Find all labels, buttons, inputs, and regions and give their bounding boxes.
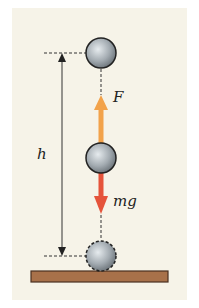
height-dimension — [58, 53, 66, 256]
ball-middle — [86, 143, 116, 173]
ground — [31, 271, 168, 282]
diagram-canvas — [0, 0, 199, 308]
weight-label: mg — [113, 192, 137, 210]
height-label: h — [37, 145, 47, 163]
force-label: F — [113, 88, 123, 106]
force-arrow-up — [94, 95, 108, 150]
ball-bottom-dashed — [86, 241, 116, 271]
ball-top — [86, 38, 116, 68]
